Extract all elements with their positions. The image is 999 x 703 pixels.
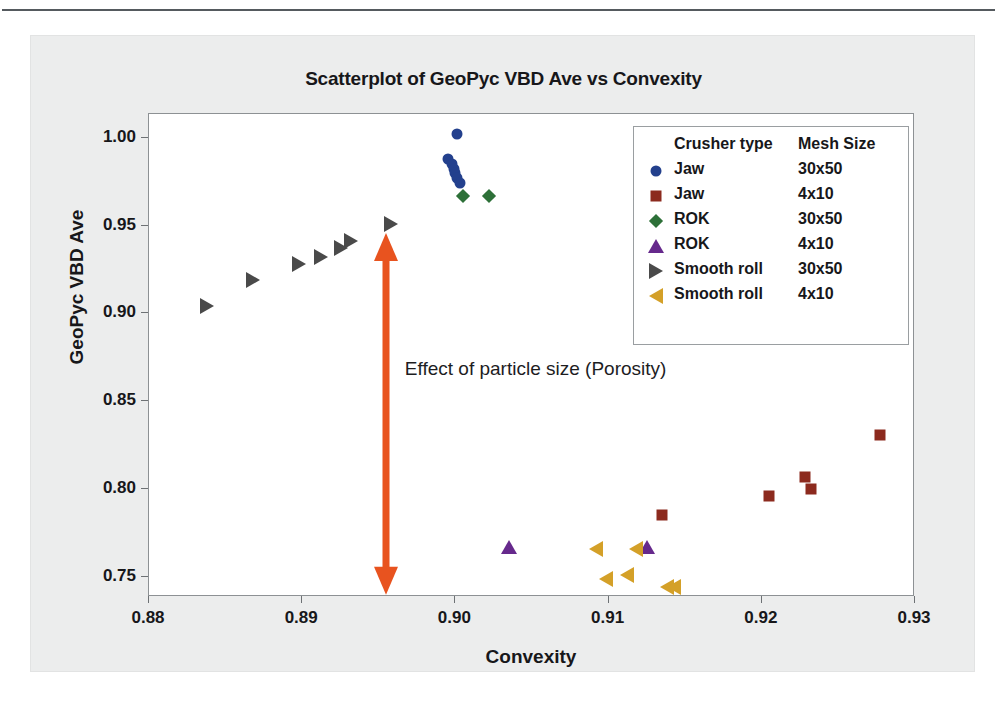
y-tick-label: 0.85 [84, 390, 136, 410]
data-point-triangle-up [501, 540, 517, 554]
data-point-diamond [482, 189, 496, 203]
x-tick-label: 0.92 [744, 608, 777, 628]
data-point-square [799, 471, 810, 482]
legend-mesh-size: 4x10 [798, 285, 834, 303]
legend-swatch-circle [651, 166, 662, 177]
legend-swatch-triangle-left [649, 288, 663, 304]
y-tick-mark [141, 137, 148, 138]
data-point-square [874, 429, 885, 440]
legend-swatch-diamond [649, 214, 663, 228]
page-top-rule [2, 9, 995, 11]
y-tick-mark [141, 225, 148, 226]
x-tick-mark [454, 596, 455, 603]
y-tick-label: 0.80 [84, 478, 136, 498]
data-point-triangle-left [620, 567, 634, 583]
x-tick-label: 0.88 [131, 608, 164, 628]
plot-area: Effect of particle size (Porosity) Crush… [149, 114, 913, 595]
legend-row: ROK4x10 [634, 234, 908, 259]
figure-panel: Scatterplot of GeoPyc VBD Ave vs Convexi… [30, 35, 975, 672]
x-tick-label: 0.90 [438, 608, 471, 628]
y-tick-mark [141, 488, 148, 489]
legend-row: Smooth roll4x10 [634, 284, 908, 309]
x-tick-mark [608, 596, 609, 603]
y-tick-label: 0.90 [84, 302, 136, 322]
legend-header-mesh-size: Mesh Size [798, 135, 875, 153]
data-point-triangle-right [344, 233, 358, 249]
legend-swatch-triangle-up [648, 239, 664, 253]
data-point-circle [451, 129, 462, 140]
legend-crusher-type: Smooth roll [674, 285, 763, 303]
chart-legend: Crusher type Mesh Size Jaw30x50Jaw4x10RO… [633, 126, 909, 345]
x-tick-mark [761, 596, 762, 603]
y-tick-label: 1.00 [84, 127, 136, 147]
data-point-triangle-right [292, 256, 306, 272]
x-axis-title: Convexity [148, 646, 914, 668]
x-tick-label: 0.89 [285, 608, 318, 628]
y-axis-title: GeoPyc VBD Ave [66, 177, 88, 397]
legend-mesh-size: 4x10 [798, 235, 834, 253]
data-point-square [657, 510, 668, 521]
data-point-triangle-left [667, 579, 681, 595]
legend-row: Jaw4x10 [634, 184, 908, 209]
legend-mesh-size: 30x50 [798, 210, 843, 228]
data-point-triangle-right [200, 298, 214, 314]
plot-frame: Effect of particle size (Porosity) Crush… [148, 113, 914, 596]
x-tick-label: 0.93 [897, 608, 930, 628]
x-tick-mark [914, 596, 915, 603]
data-point-triangle-right [384, 216, 398, 232]
legend-crusher-type: Smooth roll [674, 260, 763, 278]
chart-title: Scatterplot of GeoPyc VBD Ave vs Convexi… [31, 68, 976, 90]
legend-mesh-size: 4x10 [798, 185, 834, 203]
x-tick-label: 0.91 [591, 608, 624, 628]
legend-crusher-type: ROK [674, 235, 710, 253]
data-point-triangle-left [589, 541, 603, 557]
legend-row: Jaw30x50 [634, 159, 908, 184]
x-tick-mark [148, 596, 149, 603]
data-point-square [764, 491, 775, 502]
effect-of-particle-size-arrow [366, 233, 406, 595]
legend-crusher-type: ROK [674, 210, 710, 228]
legend-swatch-triangle-right [649, 263, 663, 279]
legend-crusher-type: Jaw [674, 160, 704, 178]
y-tick-mark [141, 312, 148, 313]
legend-row: ROK30x50 [634, 209, 908, 234]
data-point-triangle-right [314, 249, 328, 265]
legend-mesh-size: 30x50 [798, 260, 843, 278]
legend-header-row: Crusher type Mesh Size [634, 135, 908, 157]
data-point-circle [454, 178, 465, 189]
data-point-diamond [456, 189, 470, 203]
legend-mesh-size: 30x50 [798, 160, 843, 178]
legend-row: Smooth roll30x50 [634, 259, 908, 284]
data-point-triangle-left [599, 571, 613, 587]
x-tick-mark [301, 596, 302, 603]
data-point-square [805, 483, 816, 494]
data-point-triangle-left [629, 541, 643, 557]
annotation-label: Effect of particle size (Porosity) [405, 358, 667, 380]
y-tick-label: 0.75 [84, 566, 136, 586]
legend-swatch-square [651, 191, 662, 202]
y-tick-mark [141, 576, 148, 577]
data-point-triangle-right [246, 272, 260, 288]
y-tick-label: 0.95 [84, 215, 136, 235]
legend-crusher-type: Jaw [674, 185, 704, 203]
y-tick-mark [141, 400, 148, 401]
legend-header-crusher-type: Crusher type [674, 135, 773, 153]
